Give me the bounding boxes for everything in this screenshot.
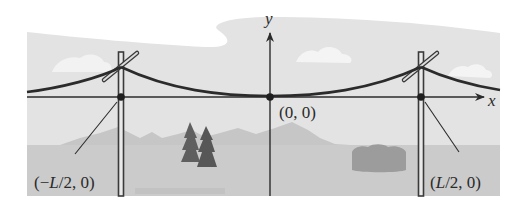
x-axis-label: x <box>488 92 496 109</box>
point-left-pole-base <box>117 93 125 101</box>
catenary-figure: y x (−L/2, 0) (0, 0) (L/2, 0) <box>0 0 526 211</box>
label-left-pole-base: (−L/2, 0) <box>34 174 95 191</box>
point-origin <box>266 93 274 101</box>
label-origin: (0, 0) <box>279 104 316 121</box>
y-axis-label: y <box>265 10 273 27</box>
point-right-pole-base <box>417 93 425 101</box>
label-right-pole-base: (L/2, 0) <box>430 174 481 191</box>
bush <box>352 144 406 172</box>
